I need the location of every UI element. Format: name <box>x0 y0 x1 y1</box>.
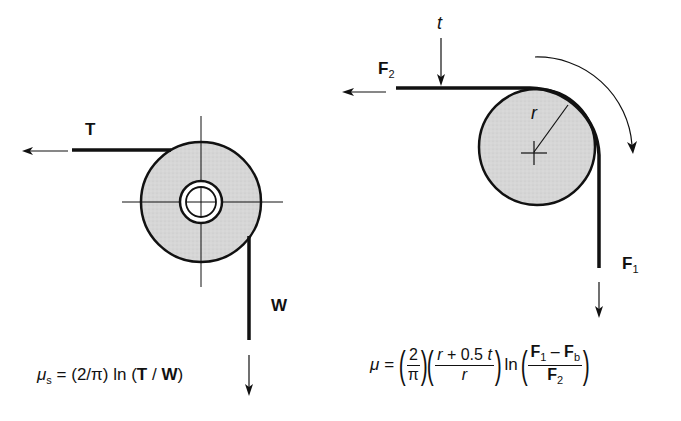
mu-subscript: s <box>46 374 52 386</box>
var-F2: F <box>547 366 557 383</box>
label-force2: F2 <box>378 60 395 80</box>
coefficient: (2/π) <box>71 365 108 384</box>
denominator: π <box>408 366 419 384</box>
equals-sign: = <box>384 355 394 375</box>
numerator: r + 0.5 t <box>435 347 494 366</box>
label-force1: F1 <box>622 255 639 275</box>
sub-2: 2 <box>557 374 563 386</box>
thickness-arrow <box>437 38 445 86</box>
denominator: F2 <box>547 366 563 387</box>
paren-close: ) <box>495 346 502 384</box>
mu-symbol: μ <box>370 355 379 375</box>
paren-open: ( <box>521 346 528 384</box>
var-T: T <box>137 365 147 384</box>
ln-operator: ln <box>505 355 518 375</box>
fraction-force-ratio: F1 – Fb F2 <box>528 344 582 386</box>
ln-operator: ln <box>113 365 126 384</box>
paren-close: ) <box>177 365 183 384</box>
numerator: F1 – Fb <box>528 344 582 366</box>
label-radius: r <box>531 104 537 122</box>
minus-sign: – <box>546 343 564 360</box>
mu-symbol: μ <box>37 365 46 384</box>
paren-open: ( <box>427 346 434 384</box>
var-F1: F <box>530 343 540 360</box>
force2-letter: F <box>378 59 388 78</box>
force1-arrow <box>595 282 603 318</box>
kinetic-friction-formula: μ = ( 2 π ) ( r + 0.5 t r ) ln ( F1 – Fb… <box>370 344 590 386</box>
var-Fb: F <box>564 343 574 360</box>
tension-line <box>22 147 171 155</box>
label-weight: W <box>271 297 287 314</box>
denominator: r <box>462 366 467 384</box>
label-thickness: t <box>437 14 442 32</box>
paren-open: ( <box>399 346 406 384</box>
static-friction-formula: μs = (2/π) ln (T / W) <box>37 365 183 386</box>
paren-close: ) <box>583 346 590 384</box>
numerator: 2 <box>407 347 420 366</box>
fraction-radius-ratio: r + 0.5 t r <box>435 347 494 384</box>
weight-line <box>245 236 253 396</box>
label-tension: T <box>85 121 95 138</box>
slash: / <box>147 365 161 384</box>
force1-letter: F <box>622 254 632 273</box>
force2-subscript: 2 <box>388 68 394 80</box>
sub-b: b <box>574 351 580 363</box>
var-W: W <box>161 365 177 384</box>
plus-term: + 0.5 <box>442 346 487 363</box>
left-pulley <box>122 116 283 287</box>
force1-subscript: 1 <box>632 263 638 275</box>
var-t: t <box>487 346 491 363</box>
equals-sign: = <box>57 365 67 384</box>
fraction-2-over-pi: 2 π <box>407 347 420 384</box>
force2-arrow <box>342 88 386 96</box>
